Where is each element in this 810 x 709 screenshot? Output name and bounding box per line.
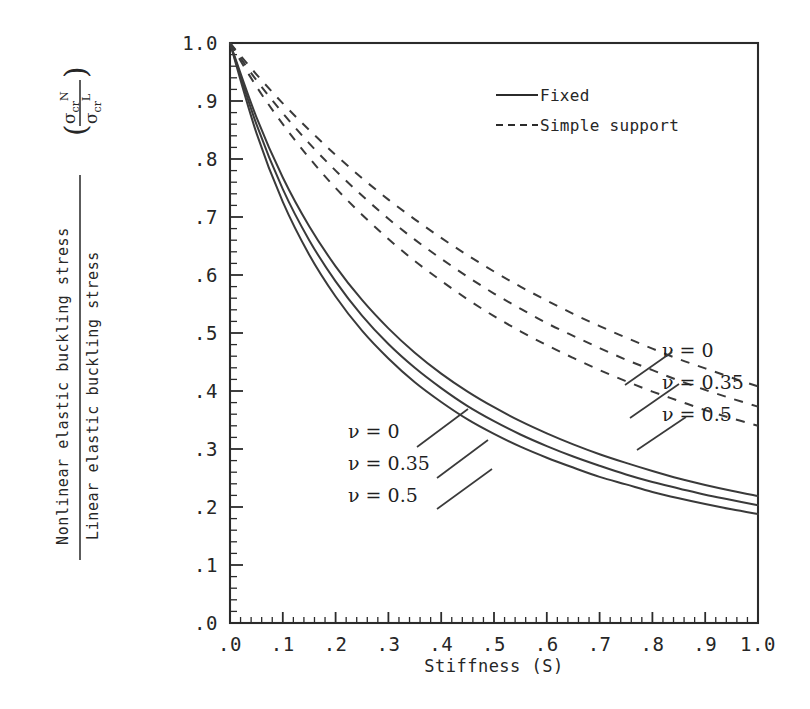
annotation-ss-nu-0: ν = 0	[662, 339, 714, 361]
y-tick-label: .3	[194, 438, 218, 460]
y-label-symbol-denominator: σcrL	[80, 93, 104, 124]
y-tick-label: .5	[194, 322, 218, 344]
y-label-symbol-numerator: σcrN	[58, 91, 82, 124]
y-tick-label: .6	[194, 264, 218, 286]
leader-fixed-nu-05	[437, 469, 492, 509]
y-tick-label: .2	[194, 496, 218, 518]
annotation-ss-nu-05: ν = 0.5	[662, 403, 732, 425]
leader-fixed-nu-035	[437, 440, 488, 478]
chart-svg: ( σcrN σcrL ) Nonlinear elastic buckling…	[0, 0, 810, 709]
annotation-fixed-nu-0: ν = 0	[348, 420, 400, 442]
x-tick-label: .1	[271, 633, 295, 655]
leader-fixed-nu-0	[417, 409, 468, 447]
data-curves	[230, 43, 758, 514]
x-tick-label: .6	[535, 633, 559, 655]
y-tick-label: .4	[194, 380, 218, 402]
figure-container: ( σcrN σcrL ) Nonlinear elastic buckling…	[0, 0, 810, 709]
x-tick-label: .3	[376, 633, 400, 655]
curve-fixed-nu-0-35	[230, 43, 758, 505]
y-label-denominator-text: Linear elastic buckling stress	[84, 251, 102, 540]
y-label-paren-close: )	[58, 66, 93, 78]
x-tick-label: .2	[324, 633, 348, 655]
legend-label-fixed: Fixed	[540, 86, 590, 105]
annotation-fixed-nu-05: ν = 0.5	[348, 484, 418, 506]
legend: Fixed Simple support	[496, 86, 679, 135]
y-tick-label: .1	[194, 554, 218, 576]
x-tick-label: .4	[429, 633, 453, 655]
y-tick-label: .9	[194, 90, 218, 112]
x-tick-label: .8	[640, 633, 664, 655]
x-tick-label: .9	[693, 633, 717, 655]
x-tick-label: 1.0	[740, 633, 776, 655]
y-tick-label: 1.0	[182, 32, 218, 54]
y-label-numerator-text: Nonlinear elastic buckling stress	[54, 227, 72, 545]
curve-simple-support-nu-0-5	[230, 43, 758, 426]
annotation-fixed-nu-035: ν = 0.35	[348, 452, 430, 474]
y-tick-label: .7	[194, 206, 218, 228]
curve-fixed-nu-0	[230, 43, 758, 496]
y-tick-label: .0	[194, 612, 218, 634]
x-tick-label: .5	[482, 633, 506, 655]
curve-fixed-nu-0-5	[230, 43, 758, 514]
legend-label-simple-support: Simple support	[540, 116, 679, 135]
annotation-group-fixed: ν = 0 ν = 0.35 ν = 0.5	[348, 409, 492, 509]
curve-simple-support-nu-0	[230, 43, 758, 386]
x-tick-label: .0	[218, 633, 242, 655]
annotation-group-simple-support: ν = 0 ν = 0.35 ν = 0.5	[625, 339, 744, 450]
y-label-paren-open: (	[58, 124, 93, 136]
y-axis-label: ( σcrN σcrL ) Nonlinear elastic buckling…	[54, 66, 104, 560]
y-tick-label: .8	[194, 148, 218, 170]
x-tick-label: .7	[588, 633, 612, 655]
annotation-ss-nu-035: ν = 0.35	[662, 371, 744, 393]
x-axis-title: Stiffness (S)	[424, 656, 564, 676]
